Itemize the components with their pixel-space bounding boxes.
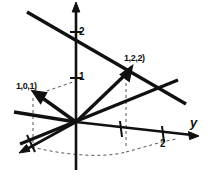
point-label-a: 1,0,1) xyxy=(16,82,37,91)
diagram-canvas xyxy=(0,0,208,182)
plane-edge-upper xyxy=(27,12,186,104)
dashed-link-point-a-to-z1 xyxy=(41,82,73,93)
vector-diagram-figure: 2 1 2 y 1,0,1) 1,2,2) xyxy=(0,0,208,182)
y-axis-arrowhead xyxy=(189,132,200,140)
y-axis-tick-label-2: 2 xyxy=(160,139,166,149)
z-axis-tick-label-2: 2 xyxy=(79,27,85,37)
x-axis-arrowhead xyxy=(19,145,30,154)
dashed-base-curve-left xyxy=(32,147,126,155)
dashed-base-curve-right xyxy=(126,139,176,152)
y-axis-line xyxy=(76,122,192,135)
plane-edge-lower xyxy=(20,80,178,144)
y-axis-label: y xyxy=(190,116,197,129)
z-axis-arrowhead xyxy=(72,2,80,12)
z-axis-tick-label-1: 1 xyxy=(79,72,85,82)
y-tick-1-mark xyxy=(120,121,122,137)
point-label-b: 1,2,2) xyxy=(124,54,145,63)
